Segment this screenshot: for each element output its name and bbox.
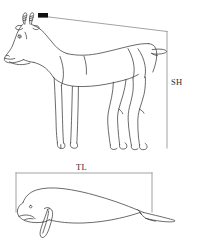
saiga-antelope-panel: [0, 0, 199, 155]
total-length-label: TL: [76, 163, 87, 172]
figure-root: SH TL: [0, 0, 199, 242]
dugong-panel: [0, 155, 199, 242]
shoulder-height-label: SH: [171, 78, 182, 87]
